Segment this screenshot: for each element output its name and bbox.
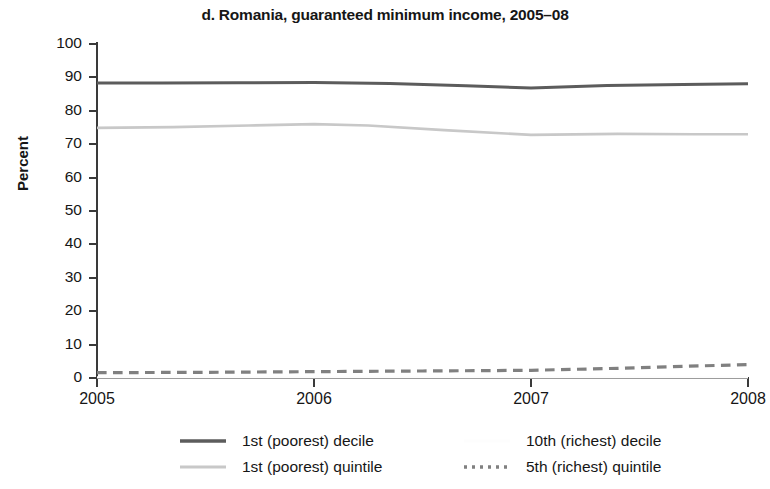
- legend-line-sample-1: [178, 430, 240, 452]
- y-tick-mark: [89, 344, 97, 346]
- y-tick-label: 10: [30, 335, 82, 353]
- chart-figure: d. Romania, guaranteed minimum income, 2…: [0, 0, 770, 489]
- series-line-2: [97, 124, 748, 135]
- y-tick-label: 30: [30, 268, 82, 286]
- y-tick-mark: [89, 110, 97, 112]
- legend-label-4: 5th (richest) quintile: [524, 458, 758, 476]
- y-tick-mark: [89, 310, 97, 312]
- chart-legend: 1st (poorest) decile10th (richest) decil…: [178, 428, 758, 480]
- x-tick-label: 2005: [79, 390, 115, 408]
- x-tick-mark: [747, 378, 749, 387]
- y-tick-label: 100: [30, 34, 82, 52]
- x-tick-label: 2006: [296, 390, 332, 408]
- series-line-4: [97, 365, 748, 373]
- y-tick-mark: [89, 76, 97, 78]
- x-tick-label: 2008: [730, 390, 766, 408]
- y-tick-label: 90: [30, 67, 82, 85]
- legend-label-1: 1st (poorest) decile: [240, 432, 462, 450]
- data-series-layer: [0, 0, 770, 489]
- y-tick-mark: [89, 177, 97, 179]
- y-tick-label: 70: [30, 134, 82, 152]
- series-line-1: [97, 82, 748, 88]
- chart-title: d. Romania, guaranteed minimum income, 2…: [0, 6, 770, 24]
- y-tick-mark: [89, 277, 97, 279]
- y-tick-label: 20: [30, 301, 82, 319]
- y-tick-label: 80: [30, 101, 82, 119]
- x-axis-line: [96, 377, 749, 379]
- x-tick-mark: [313, 378, 315, 387]
- x-tick-label: 2007: [513, 390, 549, 408]
- y-tick-label: 0: [30, 368, 82, 386]
- legend-line-sample-3: [462, 430, 524, 452]
- x-tick-mark: [96, 378, 98, 387]
- y-tick-mark: [89, 243, 97, 245]
- legend-label-2: 1st (poorest) quintile: [240, 458, 462, 476]
- y-tick-mark: [89, 210, 97, 212]
- y-tick-label: 50: [30, 201, 82, 219]
- legend-line-sample-2: [178, 456, 240, 478]
- y-tick-mark: [89, 43, 97, 45]
- y-tick-label: 40: [30, 234, 82, 252]
- x-tick-mark: [530, 378, 532, 387]
- y-tick-label: 60: [30, 168, 82, 186]
- y-axis-title: Percent: [14, 124, 31, 204]
- legend-label-3: 10th (richest) decile: [524, 432, 758, 450]
- legend-line-sample-4: [462, 456, 524, 478]
- y-tick-mark: [89, 143, 97, 145]
